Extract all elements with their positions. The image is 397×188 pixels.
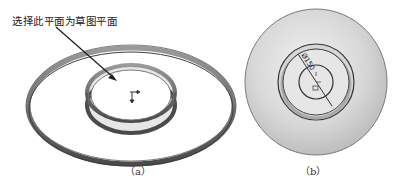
inner-ring [87,64,175,133]
figure-canvas: Ø150 [0,0,397,188]
caption-b: （b） [300,163,326,178]
callout-arrow-icon [56,27,117,81]
figure-a [28,27,234,166]
callout-label: 选择此平面为草图平面 [12,13,117,28]
figure-b: Ø150 [245,9,387,155]
caption-a: （a） [125,163,151,178]
